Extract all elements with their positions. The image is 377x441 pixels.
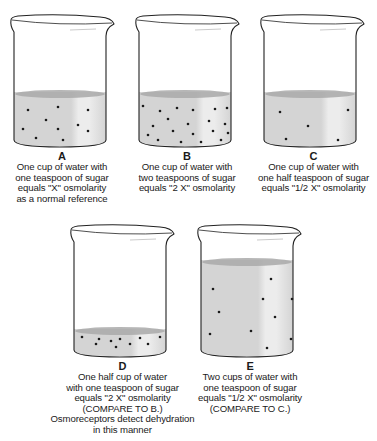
sugar-particle bbox=[110, 340, 113, 343]
beaker-a-rim bbox=[12, 20, 112, 24]
sugar-particle bbox=[192, 133, 195, 136]
caption-b-line-1: One cup of water with bbox=[125, 162, 249, 173]
sugar-particle bbox=[77, 124, 80, 127]
sugar-particle bbox=[115, 346, 118, 349]
caption-b-line-3: equals "2 X" osmolarity bbox=[125, 183, 249, 194]
sugar-particle bbox=[45, 119, 48, 122]
sugar-particle bbox=[224, 123, 227, 126]
sugar-particle bbox=[167, 118, 170, 121]
sugar-particle bbox=[274, 316, 277, 319]
sugar-particle bbox=[152, 125, 155, 128]
sugar-particle bbox=[270, 278, 273, 281]
sugar-particle bbox=[98, 338, 101, 341]
sugar-particle bbox=[81, 336, 84, 339]
sugar-particle bbox=[285, 138, 288, 141]
beaker-b-drawing bbox=[133, 14, 241, 150]
sugar-particle bbox=[172, 130, 175, 133]
sugar-particle bbox=[214, 108, 217, 111]
caption-b: B One cup of water with two teaspoons of… bbox=[125, 151, 249, 194]
caption-d: D One half cup of water with one teaspoo… bbox=[40, 361, 205, 436]
sugar-particle bbox=[119, 338, 122, 341]
beaker-c-highlight bbox=[320, 29, 346, 30]
sugar-particle bbox=[212, 288, 215, 291]
sugar-particle bbox=[57, 106, 60, 109]
sugar-particle bbox=[27, 109, 30, 112]
sugar-particle bbox=[337, 139, 340, 142]
sugar-particle bbox=[35, 137, 38, 140]
sugar-particle bbox=[212, 130, 215, 133]
beaker-c bbox=[258, 14, 366, 150]
beaker-c-liquid bbox=[264, 92, 356, 146]
beaker-a-liquid-surface bbox=[15, 90, 105, 98]
beaker-c-rim bbox=[262, 20, 362, 24]
sugar-particle bbox=[307, 125, 310, 128]
sugar-particle bbox=[208, 120, 211, 123]
sugar-particle bbox=[279, 111, 282, 114]
sugar-particle bbox=[147, 134, 150, 137]
caption-d-line-1: One half cup of water bbox=[40, 372, 205, 383]
sugar-particle bbox=[266, 347, 269, 350]
sugar-particle bbox=[142, 105, 145, 108]
beaker-d-rim bbox=[72, 230, 172, 234]
beaker-e-drawing bbox=[195, 224, 303, 360]
sugar-particle bbox=[250, 330, 253, 333]
beaker-b-rim bbox=[137, 20, 237, 24]
sugar-particle bbox=[57, 128, 60, 131]
beaker-e-highlight bbox=[257, 239, 283, 240]
beaker-a-highlight bbox=[70, 29, 96, 30]
sugar-particle bbox=[62, 139, 65, 142]
sugar-particle bbox=[159, 336, 162, 339]
beaker-e-liquid-surface bbox=[202, 258, 292, 266]
beaker-a-drawing bbox=[8, 14, 116, 150]
sugar-particle bbox=[290, 338, 293, 341]
sugar-particle bbox=[220, 139, 223, 142]
caption-c-line-1: One cup of water with bbox=[250, 162, 377, 173]
beaker-e bbox=[195, 224, 303, 360]
sugar-particle bbox=[209, 333, 212, 336]
sugar-particle bbox=[218, 311, 221, 314]
beaker-a bbox=[8, 14, 116, 150]
sugar-particle bbox=[227, 132, 230, 135]
beaker-b bbox=[133, 14, 241, 150]
sugar-particle bbox=[180, 141, 183, 144]
caption-e: E Two cups of water with one teaspoon of… bbox=[185, 361, 315, 414]
caption-c-line-3: equals "1/2 X" osmolarity bbox=[250, 183, 377, 194]
sugar-particle bbox=[226, 107, 229, 110]
sugar-particle bbox=[347, 109, 350, 112]
sugar-particle bbox=[176, 107, 179, 110]
beaker-c-drawing bbox=[258, 14, 366, 150]
sugar-particle bbox=[147, 343, 150, 346]
beaker-d bbox=[68, 224, 176, 360]
caption-a: A One cup of water with one teaspoon of … bbox=[0, 151, 124, 204]
caption-e-line-4: (COMPARE TO C.) bbox=[185, 404, 315, 415]
beaker-a-liquid bbox=[14, 92, 106, 146]
beaker-b-liquid bbox=[139, 92, 231, 146]
sugar-particle bbox=[187, 123, 190, 126]
beaker-d-highlight bbox=[130, 239, 156, 240]
beaker-e-liquid bbox=[201, 260, 293, 356]
beaker-b-liquid-surface bbox=[140, 90, 230, 98]
sugar-particle bbox=[87, 109, 90, 112]
sugar-particle bbox=[87, 130, 90, 133]
sugar-particle bbox=[95, 343, 98, 346]
sugar-particle bbox=[139, 337, 142, 340]
sugar-particle bbox=[129, 343, 132, 346]
beaker-b-highlight bbox=[195, 29, 221, 30]
beaker-e-rim bbox=[199, 230, 299, 234]
sugar-particle bbox=[192, 109, 195, 112]
sugar-particle bbox=[159, 110, 162, 113]
sugar-particle bbox=[262, 298, 265, 301]
caption-c: C One cup of water with one half teaspoo… bbox=[250, 151, 377, 194]
beaker-d-liquid-surface bbox=[75, 327, 165, 335]
beaker-d-drawing bbox=[68, 224, 176, 360]
sugar-particle bbox=[22, 128, 25, 131]
caption-a-line-4: as a normal reference bbox=[0, 194, 124, 205]
caption-e-line-1: Two cups of water with bbox=[185, 372, 315, 383]
sugar-particle bbox=[200, 141, 203, 144]
beaker-c-liquid-surface bbox=[265, 90, 355, 98]
sugar-particle bbox=[157, 139, 160, 142]
caption-d-line-6: in this manner bbox=[40, 425, 205, 436]
caption-a-line-1: One cup of water with bbox=[0, 162, 124, 173]
